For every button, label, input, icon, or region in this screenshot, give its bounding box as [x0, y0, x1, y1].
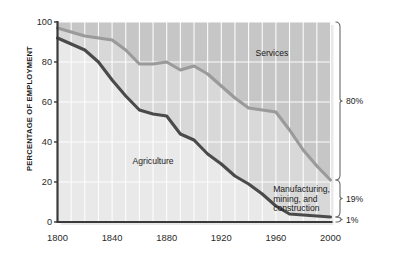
x-tick-1920: 1920	[199, 232, 243, 243]
x-tick-1880: 1880	[145, 232, 189, 243]
x-tick-1800: 1800	[36, 232, 80, 243]
x-tick-1840: 1840	[90, 232, 134, 243]
chart-plot-area	[0, 0, 394, 265]
x-tick-1960: 1960	[254, 232, 298, 243]
series-label-services: Services	[255, 49, 288, 59]
brace-label-1pct: 1%	[346, 215, 358, 225]
brace-label-80pct: 80%	[346, 96, 363, 106]
employment-share-chart: PERCENTAGE OF EMPLOYMENT 020406080100 80…	[0, 0, 394, 265]
x-tick-2000: 2000	[309, 232, 353, 243]
series-label-agriculture: Agriculture	[133, 157, 174, 167]
brace-label-19pct: 19%	[346, 194, 363, 204]
series-label-manufacturing: Manufacturing, mining, and construction	[273, 185, 330, 214]
